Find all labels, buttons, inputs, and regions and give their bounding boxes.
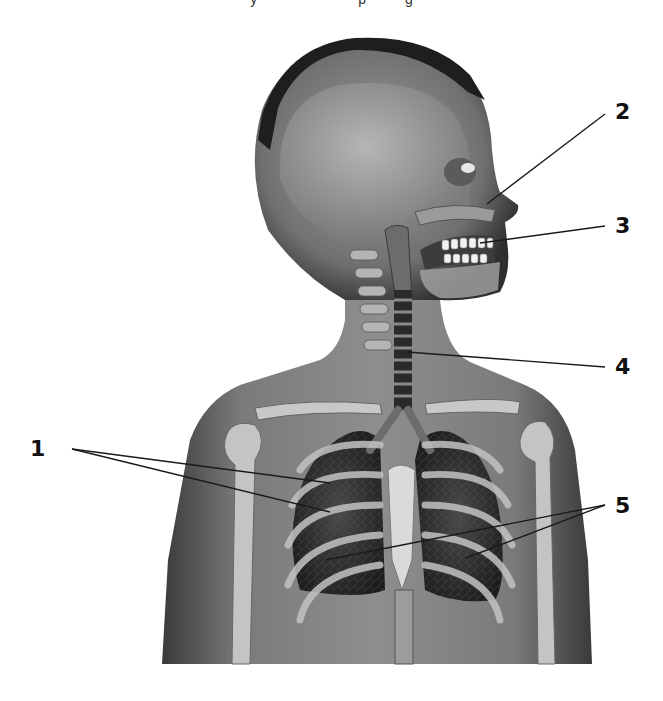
spine bbox=[395, 590, 413, 664]
anatomy-diagram: y p g bbox=[0, 0, 663, 701]
trachea bbox=[394, 290, 412, 410]
leader-2 bbox=[487, 114, 605, 204]
label-4: 4 bbox=[615, 356, 630, 378]
label-1: 1 bbox=[30, 438, 45, 460]
clipped-caption-text: y p g bbox=[0, 0, 663, 7]
label-3: 3 bbox=[615, 215, 630, 237]
eye bbox=[461, 163, 475, 173]
label-2: 2 bbox=[615, 101, 630, 123]
label-5: 5 bbox=[615, 495, 630, 517]
respiratory-illustration bbox=[0, 0, 663, 701]
